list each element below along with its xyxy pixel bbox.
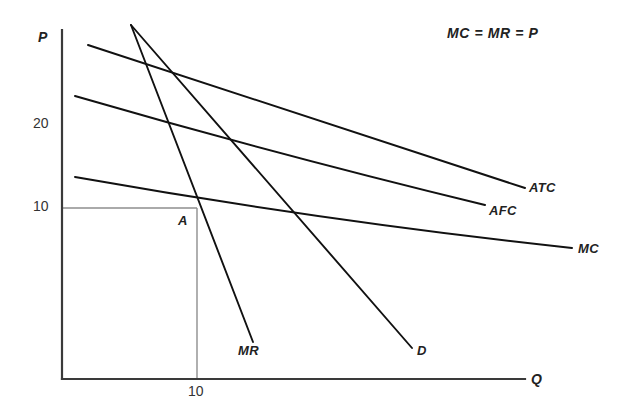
curve-afc xyxy=(75,96,485,205)
y-tick-label-20: 20 xyxy=(33,115,49,131)
plot-canvas xyxy=(0,0,637,420)
y-tick-label-10: 10 xyxy=(33,198,49,214)
equation-annotation: MC = MR = P xyxy=(447,25,538,41)
x-axis-label: Q xyxy=(531,371,542,387)
curve-label-d: D xyxy=(417,343,427,358)
y-axis-label: P xyxy=(38,29,47,45)
curve-label-atc: ATC xyxy=(529,180,556,195)
x-tick-label-10: 10 xyxy=(188,383,204,399)
curve-label-mc: MC xyxy=(578,241,599,256)
economics-cost-curve-figure: P Q 20 10 10 A ATC AFC MC D MR MC = MR =… xyxy=(0,0,637,420)
point-label-a: A xyxy=(178,213,187,228)
curve-label-mr: MR xyxy=(238,343,259,358)
curve-d xyxy=(131,25,412,348)
curve-label-afc: AFC xyxy=(489,203,517,218)
curve-mr xyxy=(131,25,253,342)
curve-atc xyxy=(88,45,525,188)
